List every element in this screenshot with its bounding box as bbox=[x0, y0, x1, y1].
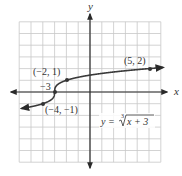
point-neg3-0 bbox=[53, 90, 57, 94]
svg-text:y =: y = bbox=[100, 116, 115, 127]
label-neg4-neg1: (−4, −1) bbox=[45, 104, 78, 116]
equation-label: y = 3 x + 3 bbox=[99, 113, 155, 128]
eq-radicand: x + 3 bbox=[126, 116, 148, 127]
x-axis-label: x bbox=[173, 85, 179, 97]
label-neg2-1: (−2, 1) bbox=[33, 66, 60, 78]
point-neg2-1 bbox=[65, 78, 69, 82]
cube-root-graph: x y (−2, 1) −3 (−4, −1) (5, 2) y = 3 x +… bbox=[0, 0, 182, 176]
label-neg3: −3 bbox=[40, 81, 51, 92]
y-axis-label: y bbox=[87, 0, 93, 12]
label-5-2: (5, 2) bbox=[124, 55, 146, 67]
point-5-2 bbox=[148, 67, 152, 71]
eq-index: 3 bbox=[121, 113, 124, 119]
eq-lhs: y = bbox=[100, 116, 115, 127]
